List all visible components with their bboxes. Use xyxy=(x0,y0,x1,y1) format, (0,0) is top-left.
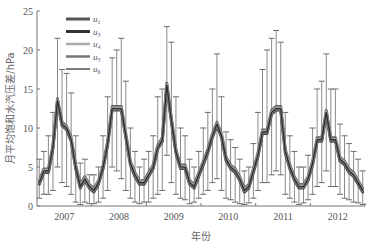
y-tick-label: 15 xyxy=(23,84,33,95)
y-tick-label: 10 xyxy=(23,123,33,134)
y-tick-label: 0 xyxy=(28,201,33,212)
y-axis-title: 月平均饱和水汽压差/hPa xyxy=(4,52,16,163)
legend-label-u1: u1 xyxy=(93,14,101,25)
x-tick-label: 2007 xyxy=(54,211,74,222)
vpd-line-chart: 0510152025200720082009201020112012 u1u3u… xyxy=(0,0,372,247)
x-tick-label: 2009 xyxy=(164,211,184,222)
legend: u1u3u4u5u6 xyxy=(66,14,101,75)
series-lines xyxy=(39,83,362,192)
series-line-u3 xyxy=(39,87,362,192)
series-line-u5 xyxy=(39,86,362,191)
legend-label-u6: u6 xyxy=(93,64,101,75)
y-tick-label: 20 xyxy=(23,45,33,56)
x-tick-label: 2012 xyxy=(328,211,348,222)
x-tick-label: 2011 xyxy=(273,211,293,222)
y-tick-label: 25 xyxy=(23,6,33,17)
y-tick-label: 5 xyxy=(28,162,33,173)
legend-label-u3: u3 xyxy=(93,27,101,38)
legend-label-u4: u4 xyxy=(93,39,101,50)
legend-label-u5: u5 xyxy=(93,52,101,63)
x-tick-label: 2008 xyxy=(109,211,129,222)
x-axis-title: 年份 xyxy=(191,230,211,242)
x-tick-label: 2010 xyxy=(218,211,238,222)
